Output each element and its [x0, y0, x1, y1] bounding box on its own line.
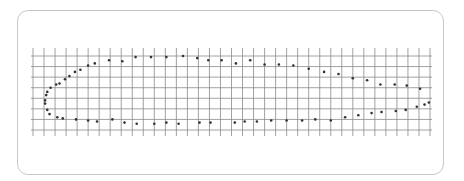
- upper-surface-point: [366, 79, 369, 82]
- lower-surface-point: [198, 121, 201, 124]
- lower-surface-point: [46, 109, 49, 112]
- upper-surface-point: [379, 83, 382, 86]
- lower-surface-point: [111, 118, 114, 121]
- lower-surface-point: [62, 117, 65, 120]
- lower-surface-point: [330, 119, 333, 122]
- upper-surface-point: [134, 56, 137, 59]
- lower-surface-point: [380, 111, 383, 114]
- grid: [31, 48, 432, 136]
- upper-surface-point: [249, 59, 252, 62]
- lower-surface-point: [123, 121, 126, 124]
- lower-surface-point: [48, 113, 51, 116]
- lower-surface-point: [96, 120, 99, 123]
- lower-surface-point: [416, 105, 419, 108]
- upper-surface-point: [307, 67, 310, 70]
- lower-surface-point: [395, 110, 398, 113]
- upper-surface-point: [393, 83, 396, 86]
- lower-surface-point: [423, 103, 426, 106]
- lower-surface-point: [209, 121, 212, 124]
- lower-surface-point: [270, 119, 273, 122]
- upper-surface-point: [64, 78, 67, 81]
- upper-surface-point: [68, 75, 71, 78]
- lower-surface-point: [45, 94, 48, 97]
- upper-surface-point: [49, 86, 52, 89]
- lower-surface-point: [44, 99, 47, 102]
- upper-surface-point: [278, 63, 281, 66]
- upper-surface-point: [121, 60, 124, 63]
- upper-surface-point: [55, 83, 58, 86]
- lower-surface-point: [301, 119, 304, 122]
- upper-surface-point: [58, 82, 61, 85]
- lower-surface-point: [234, 121, 237, 124]
- lower-surface-point: [428, 101, 431, 104]
- upper-surface-point: [220, 59, 223, 62]
- lower-surface-point: [243, 120, 246, 123]
- lower-surface-point: [153, 122, 156, 125]
- upper-surface-point: [94, 62, 97, 65]
- upper-surface-point: [74, 71, 77, 74]
- lower-surface-point: [135, 122, 138, 125]
- upper-surface-point: [182, 55, 185, 58]
- upper-surface-point: [419, 88, 422, 91]
- upper-surface-point: [46, 91, 49, 94]
- upper-surface-point: [263, 63, 266, 66]
- upper-surface-point: [196, 57, 199, 60]
- lower-surface-point: [87, 119, 90, 122]
- upper-surface-point: [352, 77, 355, 80]
- lower-surface-point: [256, 120, 259, 123]
- upper-surface-point: [165, 56, 168, 59]
- lower-surface-point: [75, 118, 78, 121]
- upper-surface-point: [235, 62, 238, 65]
- lower-surface-point: [285, 119, 288, 122]
- upper-surface-point: [79, 68, 82, 71]
- upper-surface-point: [323, 71, 326, 74]
- lower-surface-point: [370, 112, 373, 115]
- upper-surface-point: [87, 64, 90, 67]
- lower-surface-point: [177, 122, 180, 125]
- airfoil-grid-diagram: [0, 0, 464, 181]
- lower-surface-point: [357, 114, 360, 117]
- outline-points: [44, 55, 430, 125]
- upper-surface-point: [337, 73, 340, 76]
- lower-surface-point: [56, 116, 59, 119]
- lower-surface-point: [165, 121, 168, 124]
- lower-surface-point: [404, 109, 407, 112]
- upper-surface-point: [150, 56, 153, 59]
- lower-surface-point: [44, 102, 47, 105]
- upper-surface-point: [108, 59, 111, 62]
- lower-surface-point: [344, 116, 347, 119]
- lower-surface-point: [314, 118, 317, 121]
- upper-surface-point: [292, 64, 295, 67]
- upper-surface-point: [207, 59, 210, 62]
- upper-surface-point: [406, 84, 409, 87]
